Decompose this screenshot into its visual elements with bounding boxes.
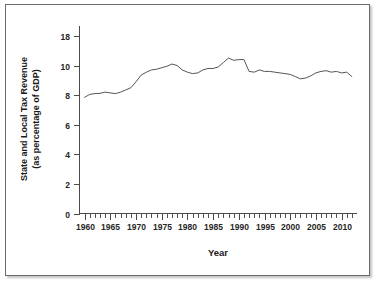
x-tick-label-1980: 1980 <box>178 222 197 232</box>
x-tick-label-1995: 1995 <box>256 222 275 232</box>
x-tick-label-1970: 1970 <box>127 222 146 232</box>
x-tick-label-1960: 1960 <box>76 222 95 232</box>
x-axis-minor-ticks <box>86 214 353 219</box>
x-tick-label-1985: 1985 <box>204 222 223 232</box>
x-tick-label-1975: 1975 <box>153 222 172 232</box>
y-tick-label-6: 6 <box>65 121 70 131</box>
x-tick-label-2010: 2010 <box>333 222 352 232</box>
x-tick-label-2000: 2000 <box>281 222 300 232</box>
y-axis-title-line1: State and Local Tax Revenue <box>19 57 29 181</box>
x-axis-tick-labels: 1960196519701975198019851990199520002005… <box>76 222 352 232</box>
y-axis-ticks <box>74 37 80 215</box>
x-tick-label-2005: 2005 <box>307 222 326 232</box>
y-tick-label-4: 4 <box>65 150 70 160</box>
x-tick-label-1965: 1965 <box>101 222 120 232</box>
y-tick-label-18: 18 <box>61 32 71 42</box>
y-axis-tick-labels: 024681018 <box>61 32 71 220</box>
y-axis-title-line2: (as percentage of GDP) <box>31 69 41 169</box>
x-tick-label-1990: 1990 <box>230 222 249 232</box>
y-tick-label-0: 0 <box>65 210 70 220</box>
y-tick-label-2: 2 <box>65 180 70 190</box>
chart-figure: 024681018 196019651970197519801985199019… <box>0 0 380 285</box>
y-tick-label-8: 8 <box>65 91 70 101</box>
x-axis-major-ticks <box>86 214 343 220</box>
data-series-line <box>85 58 352 97</box>
y-tick-label-10: 10 <box>61 62 71 72</box>
x-axis-title: Year <box>208 247 228 258</box>
line-chart-plot: 024681018 196019651970197519801985199019… <box>0 0 380 285</box>
